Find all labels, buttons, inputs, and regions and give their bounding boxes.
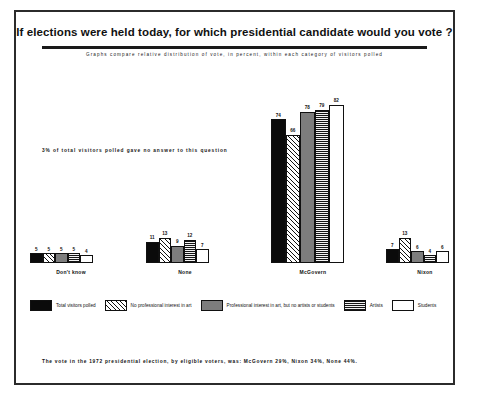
bar[interactable] <box>196 249 209 263</box>
bar-item[interactable]: 7 <box>386 98 399 263</box>
bar[interactable] <box>30 253 43 263</box>
legend-item[interactable]: Total visitors polled <box>30 300 96 311</box>
bar-value-label: 82 <box>334 98 339 104</box>
bar[interactable] <box>329 105 344 264</box>
bar[interactable] <box>286 135 301 263</box>
legend-swatch-icon <box>392 300 414 311</box>
bar-item[interactable]: 11 <box>146 98 159 263</box>
bar-value-label: 5 <box>60 247 63 253</box>
bar[interactable] <box>399 238 412 263</box>
bar-value-label: 7 <box>201 243 204 249</box>
bar-group-bars: 7466787982 <box>271 98 355 263</box>
bar-group-label: None <box>146 269 224 275</box>
legend-swatch-icon <box>201 300 223 311</box>
bar-value-label: 6 <box>416 245 419 251</box>
bar[interactable] <box>159 238 172 263</box>
bar-value-label: 78 <box>305 105 310 111</box>
bar-value-label: 12 <box>187 233 192 239</box>
legend-label: Professional interest in art, but no art… <box>227 303 335 308</box>
bar-item[interactable]: 82 <box>329 98 344 263</box>
bar-item[interactable]: 78 <box>300 98 315 263</box>
legend-label: Total visitors polled <box>56 303 96 308</box>
bar-value-label: 13 <box>162 231 167 237</box>
bar-value-label: 13 <box>402 231 407 237</box>
bar-item[interactable]: 12 <box>184 98 197 263</box>
bar-value-label: 9 <box>176 239 179 245</box>
bar[interactable] <box>315 110 330 263</box>
bar-item[interactable]: 5 <box>68 98 81 263</box>
bar-group: 713646Nixon <box>386 82 464 277</box>
bar[interactable] <box>43 253 56 263</box>
bar-item[interactable]: 7 <box>196 98 209 263</box>
bar-group: 7466787982McGovern <box>271 82 355 277</box>
legend-swatch-icon <box>344 300 366 311</box>
bar-value-label: 6 <box>441 245 444 251</box>
footer-note: The vote in the 1972 presidential electi… <box>42 359 358 364</box>
legend-swatch-icon <box>105 300 127 311</box>
bar-value-label: 79 <box>319 103 324 109</box>
legend-item[interactable]: Artists <box>344 300 383 311</box>
page-subtitle: Graphs compare relative distribution of … <box>16 52 453 57</box>
bar[interactable] <box>171 246 184 263</box>
bar-group-label: Nixon <box>386 269 464 275</box>
bar-item[interactable]: 79 <box>315 98 330 263</box>
bar[interactable] <box>436 251 449 263</box>
bar-group-bars: 11139127 <box>146 98 224 263</box>
bar-value-label: 66 <box>290 128 295 134</box>
bar-value-label: 4 <box>428 249 431 255</box>
bar[interactable] <box>55 253 68 263</box>
bar-group: 55554Don't know <box>30 82 112 277</box>
bar-group-bars: 713646 <box>386 98 464 263</box>
bar-value-label: 5 <box>35 247 38 253</box>
bar[interactable] <box>68 253 81 263</box>
bar-item[interactable]: 4 <box>80 98 93 263</box>
bar-value-label: 5 <box>47 247 50 253</box>
legend-label: Artists <box>370 303 383 308</box>
bar[interactable] <box>386 249 399 263</box>
bar-group-bars: 55554 <box>30 98 112 263</box>
bar-value-label: 5 <box>72 247 75 253</box>
legend-item[interactable]: No professional interest in art <box>105 300 192 311</box>
legend-item[interactable]: Students <box>392 300 437 311</box>
bar[interactable] <box>146 242 159 263</box>
bar-item[interactable]: 13 <box>399 98 412 263</box>
legend-label: Students <box>418 303 437 308</box>
bar-group: 11139127None <box>146 82 224 277</box>
bar-item[interactable]: 6 <box>411 98 424 263</box>
bar[interactable] <box>80 255 93 263</box>
bar-item[interactable]: 13 <box>159 98 172 263</box>
bar-item[interactable]: 6 <box>436 98 449 263</box>
bar-group-label: McGovern <box>271 269 355 275</box>
bar-item[interactable]: 4 <box>424 98 437 263</box>
legend-label: No professional interest in art <box>131 303 192 308</box>
bar-item[interactable]: 5 <box>30 98 43 263</box>
bar[interactable] <box>184 240 197 263</box>
bar-item[interactable]: 9 <box>171 98 184 263</box>
title-divider <box>42 46 427 49</box>
bar-item[interactable]: 5 <box>55 98 68 263</box>
poster-frame: If elections were held today, for which … <box>14 10 455 385</box>
bar[interactable] <box>271 119 286 263</box>
bar[interactable] <box>300 112 315 263</box>
bar-value-label: 74 <box>276 113 281 119</box>
bar[interactable] <box>424 255 437 263</box>
bar-value-label: 4 <box>85 249 88 255</box>
bar-item[interactable]: 66 <box>286 98 301 263</box>
bar-item[interactable]: 74 <box>271 98 286 263</box>
bar-group-label: Don't know <box>30 269 112 275</box>
bar-value-label: 11 <box>150 235 155 241</box>
bar-chart: 55554Don't know11139127None7466787982McG… <box>16 82 453 277</box>
page-title: If elections were held today, for which … <box>16 26 453 38</box>
bar-value-label: 7 <box>391 243 394 249</box>
legend-swatch-icon <box>30 300 52 311</box>
legend-item[interactable]: Professional interest in art, but no art… <box>201 300 335 311</box>
bar[interactable] <box>411 251 424 263</box>
bar-item[interactable]: 5 <box>43 98 56 263</box>
chart-legend: Total visitors polledNo professional int… <box>30 300 460 311</box>
